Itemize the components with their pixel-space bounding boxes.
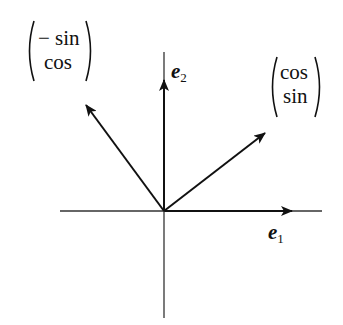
cos-sin-vector-arrow <box>164 133 265 211</box>
cos-sin-vector-label: cos sin <box>0 0 343 130</box>
e1-label-base: e <box>268 220 277 244</box>
e1-label: e1 <box>268 222 284 245</box>
e1-label-subscript: 1 <box>277 231 284 246</box>
vector-entry-top: cos <box>280 62 308 83</box>
right-paren-icon <box>313 56 325 118</box>
vector-entry-bottom: sin <box>283 86 308 107</box>
left-paren-icon <box>267 56 279 118</box>
